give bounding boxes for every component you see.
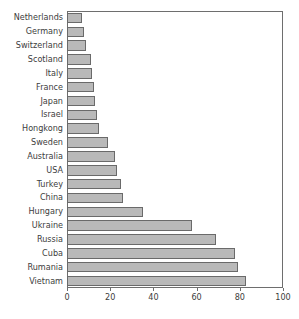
category-label: Russia [0, 235, 63, 244]
category-label: Netherlands [0, 13, 63, 22]
category-label: Cuba [0, 249, 63, 258]
bar [67, 151, 115, 162]
x-axis-tick [197, 288, 198, 291]
bar [67, 40, 86, 51]
category-label: Turkey [0, 180, 63, 189]
bar-chart: NetherlandsGermanySwitzerlandScotlandIta… [0, 0, 299, 319]
category-label: Japan [0, 97, 63, 106]
bar [67, 262, 238, 273]
x-axis-tick [240, 288, 241, 291]
bar [67, 220, 192, 231]
x-axis-tick-label: 100 [275, 292, 290, 302]
bar [67, 276, 246, 287]
category-label: Israel [0, 110, 63, 119]
figure-caption [8, 310, 291, 319]
bar [67, 27, 84, 38]
x-axis-tick-label: 0 [64, 292, 69, 302]
x-axis-tick-label: 60 [191, 292, 201, 302]
bar [67, 165, 117, 176]
bar [67, 234, 216, 245]
category-label: Italy [0, 69, 63, 78]
bar [67, 193, 123, 204]
category-label: Vietnam [0, 277, 63, 286]
x-axis-tick [110, 288, 111, 291]
bar [67, 96, 95, 107]
bars-container [67, 11, 283, 288]
category-label: France [0, 83, 63, 92]
bar [67, 137, 108, 148]
category-label: USA [0, 166, 63, 175]
value-axis: 020406080100 [67, 288, 283, 310]
x-axis-tick-label: 40 [148, 292, 158, 302]
x-axis-tick [153, 288, 154, 291]
bar [67, 207, 143, 218]
bar [67, 123, 99, 134]
category-label: Germany [0, 27, 63, 36]
category-label: Rumania [0, 263, 63, 272]
bar [67, 248, 235, 259]
x-axis-tick [67, 288, 68, 291]
category-label: Hungary [0, 207, 63, 216]
category-axis: NetherlandsGermanySwitzerlandScotlandIta… [0, 11, 63, 288]
bar [67, 179, 121, 190]
category-label: Hongkong [0, 124, 63, 133]
bar [67, 54, 91, 65]
category-label: Scotland [0, 55, 63, 64]
bar [67, 68, 92, 79]
bar [67, 82, 94, 93]
bar [67, 110, 97, 121]
bar [67, 13, 82, 24]
category-label: Switzerland [0, 41, 63, 50]
category-label: China [0, 193, 63, 202]
category-label: Australia [0, 152, 63, 161]
category-label: Ukraine [0, 221, 63, 230]
x-axis-tick-label: 20 [105, 292, 115, 302]
x-axis-tick-label: 80 [235, 292, 245, 302]
x-axis-tick [283, 288, 284, 291]
category-label: Sweden [0, 138, 63, 147]
